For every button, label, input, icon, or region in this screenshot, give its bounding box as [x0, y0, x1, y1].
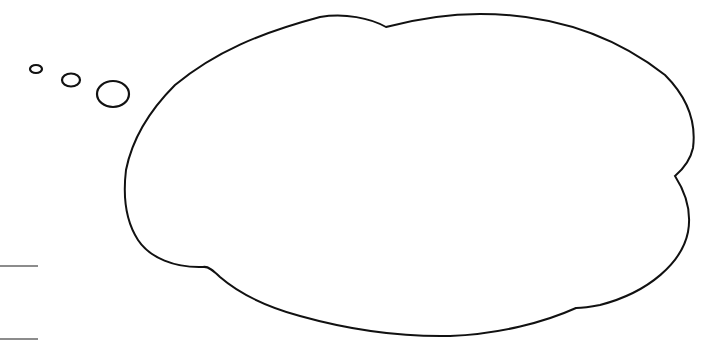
left-guide-lines	[0, 266, 38, 339]
thought-bubble-drawing	[0, 0, 720, 346]
trail-circle-medium	[62, 74, 80, 87]
thought-trail	[30, 65, 129, 107]
trail-circle-large	[97, 81, 129, 107]
cloud-outline	[125, 14, 694, 336]
trail-circle-small	[30, 65, 42, 73]
